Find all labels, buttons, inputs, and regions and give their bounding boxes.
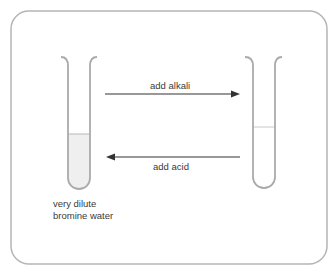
- label-add-alkali: add alkali: [150, 80, 190, 91]
- frame: [11, 11, 327, 264]
- diagram-canvas: [0, 0, 336, 272]
- label-left-tube-line2: bromine water: [53, 210, 113, 221]
- label-add-acid: add acid: [153, 161, 189, 172]
- label-left-tube-line1: very dilute: [53, 198, 96, 209]
